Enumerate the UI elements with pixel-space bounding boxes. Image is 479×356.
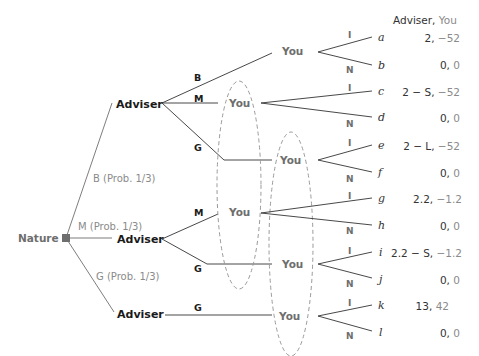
payoff-i-adviser: 2.2 − S, [391, 247, 433, 259]
branch-b [318, 52, 372, 65]
adviser-3-action-g: G [194, 302, 202, 313]
payoff-header-you: You [435, 14, 456, 26]
payoff-h-adviser: 0, [440, 220, 450, 232]
terminal-k-label: k [378, 299, 385, 312]
payoff-a-you: −52 [435, 32, 461, 44]
you-node-3-label: You [279, 154, 301, 166]
payoff-h-you: 0 [450, 220, 460, 232]
branch-j [318, 264, 372, 278]
you-node-6-label: You [278, 310, 300, 322]
terminal-d-label: d [378, 111, 385, 124]
action-n-3: N [346, 174, 354, 184]
branch-h [261, 213, 372, 225]
you-node-4-label: You [228, 206, 250, 218]
payoff-a: 2, −52 [424, 32, 460, 44]
terminal-b-label: b [378, 59, 385, 72]
adviser-2-action-g: G [194, 263, 202, 274]
payoff-e-adviser: 2 − L, [403, 140, 434, 152]
adviser-node-1-label: Adviser [116, 98, 163, 111]
payoff-b: 0, 0 [440, 59, 460, 71]
nature-node: Nature [18, 232, 70, 244]
adviser-2-branch-m [162, 214, 218, 239]
payoff-i-you: −1.2 [433, 247, 462, 259]
branch-i [318, 252, 372, 264]
terminal-i-label: i [379, 246, 383, 259]
information-set-1 [217, 81, 261, 289]
adviser-1-action-m: M [194, 93, 203, 104]
terminal-a-label: a [378, 31, 385, 44]
you-node-1-label: You [281, 45, 303, 57]
terminal-e-label: e [378, 139, 385, 152]
payoff-c: 2 − S, −52 [402, 86, 460, 98]
nature-branch-b-label: B (Prob. 1/3) [93, 173, 156, 184]
payoff-l-adviser: 0, [440, 327, 450, 339]
action-i-1: I [348, 30, 351, 40]
action-n-6: N [346, 331, 354, 341]
payoff-j-you: 0 [450, 274, 460, 286]
payoff-d: 0, 0 [440, 112, 460, 124]
branch-c [261, 91, 372, 103]
payoff-e-you: −52 [435, 140, 461, 152]
branch-d [261, 103, 372, 117]
branch-a [318, 37, 372, 52]
action-i-4: I [348, 191, 351, 201]
action-i-2: I [348, 83, 351, 93]
game-tree-diagram: Nature B (Prob. 1/3) M (Prob. 1/3) G (Pr… [0, 0, 479, 356]
payoff-d-adviser: 0, [440, 112, 450, 124]
nature-branch-g-label: G (Prob. 1/3) [96, 271, 159, 282]
payoff-g-adviser: 2.2, [413, 193, 433, 205]
action-i-5: I [348, 246, 351, 256]
action-i-6: I [348, 298, 351, 308]
payoff-d-you: 0 [450, 112, 460, 124]
adviser-1-branch-b [162, 53, 272, 103]
adviser-1-action-b: B [194, 72, 201, 83]
payoff-f: 0, 0 [440, 167, 460, 179]
action-n-4: N [346, 226, 354, 236]
payoff-f-you: 0 [450, 167, 460, 179]
payoff-l-you: 0 [450, 327, 460, 339]
payoff-header-adviser: Adviser, [393, 14, 435, 26]
terminal-j-label: j [376, 273, 383, 286]
nature-label: Nature [18, 232, 59, 244]
payoff-header: Adviser, You [393, 14, 457, 26]
adviser-node-3-label: Adviser [117, 308, 164, 321]
action-n-2: N [346, 119, 354, 129]
terminal-g-label: g [378, 192, 385, 205]
action-n-1: N [346, 65, 354, 75]
payoff-c-you: −52 [435, 86, 461, 98]
terminal-c-label: c [378, 85, 384, 98]
terminal-h-label: h [378, 219, 385, 232]
action-n-5: N [346, 279, 354, 289]
branch-e [318, 145, 372, 160]
terminal-f-label: f [377, 166, 384, 179]
branch-f [318, 160, 372, 172]
branch-g [261, 198, 372, 213]
adviser-2-action-m: M [194, 207, 203, 218]
payoff-g-you: −1.2 [433, 193, 462, 205]
payoff-j-adviser: 0, [440, 274, 450, 286]
you-node-5-label: You [281, 258, 303, 270]
payoff-j: 0, 0 [440, 274, 460, 286]
adviser-1-action-g: G [194, 142, 202, 153]
payoff-h: 0, 0 [440, 220, 460, 232]
payoff-k-adviser: 13, [416, 300, 433, 312]
payoff-l: 0, 0 [440, 327, 460, 339]
payoff-k-you: 42 [432, 300, 449, 312]
payoff-b-adviser: 0, [440, 59, 450, 71]
you-node-2-label: You [228, 97, 250, 109]
nature-branch-b [66, 103, 112, 238]
payoff-k: 13, 42 [416, 300, 449, 312]
payoff-f-adviser: 0, [440, 167, 450, 179]
payoff-g: 2.2, −1.2 [413, 193, 462, 205]
adviser-node-2-label: Adviser [117, 233, 164, 246]
payoff-b-you: 0 [450, 59, 460, 71]
terminal-l-label: l [379, 326, 383, 339]
payoff-c-adviser: 2 − S, [402, 86, 434, 98]
payoff-column: 2, −52 0, 0 2 − S, −52 0, 0 2 − L, −52 0… [391, 32, 462, 339]
payoff-a-adviser: 2, [424, 32, 434, 44]
payoff-e: 2 − L, −52 [403, 140, 460, 152]
adviser-1-branch-g [162, 103, 272, 160]
branch-k [318, 305, 372, 316]
branch-l [318, 316, 372, 331]
nature-branch-m-label: M (Prob. 1/3) [78, 221, 142, 232]
